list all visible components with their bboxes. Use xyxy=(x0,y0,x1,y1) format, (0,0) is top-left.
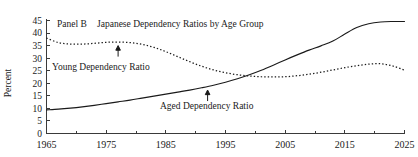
panel-title: Panel B xyxy=(57,19,87,29)
y-tick-label: 35 xyxy=(33,41,43,51)
x-tick-label: 1975 xyxy=(96,139,116,150)
y-tick-label: 5 xyxy=(37,116,42,126)
x-tick-label: 1995 xyxy=(216,139,236,150)
y-axis-title: Percent xyxy=(3,68,13,97)
y-tick-label: 45 xyxy=(33,16,43,26)
x-tick-label: 2025 xyxy=(395,139,415,150)
y-tick-label: 15 xyxy=(33,91,43,101)
x-tick-label: 1985 xyxy=(156,139,176,150)
chart-figure: 0510152025303540451965197519851995200520… xyxy=(0,0,418,157)
y-tick-label: 20 xyxy=(33,79,43,89)
x-tick-label: 2005 xyxy=(275,139,295,150)
young-ratio-arrow-icon xyxy=(116,46,121,51)
y-tick-label: 40 xyxy=(33,28,43,38)
x-tick-label: 1965 xyxy=(37,139,57,150)
aged-dependency-ratio-label: Aged Dependency Ratio xyxy=(160,101,254,111)
y-tick-label: 0 xyxy=(37,129,42,139)
aged-ratio-arrow-icon xyxy=(205,90,210,95)
y-tick-label: 30 xyxy=(33,54,43,64)
x-tick-label: 2015 xyxy=(335,139,355,150)
y-tick-label: 25 xyxy=(33,66,43,76)
dependency-ratios-line-chart: 0510152025303540451965197519851995200520… xyxy=(0,0,418,157)
young-dependency-ratio-label: Young Dependency Ratio xyxy=(52,62,150,72)
chart-title: Japanese Dependency Ratios by Age Group xyxy=(97,19,264,29)
y-tick-label: 10 xyxy=(33,104,43,114)
